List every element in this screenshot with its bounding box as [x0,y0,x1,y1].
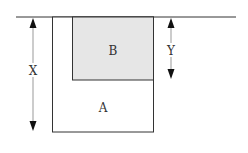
dimension-y-label: Y [166,44,176,58]
diagram-canvas: X Y B A [0,0,248,153]
dimension-y-arrowhead-top-icon [168,18,175,28]
dimension-y-arrowhead-bottom-icon [168,69,175,79]
region-a-label: A [98,101,108,115]
region-b-label: B [109,44,118,58]
dimension-x-arrowhead-top-icon [30,18,37,28]
dimension-x-arrowhead-bottom-icon [30,121,37,131]
dimension-x-label: X [29,64,38,78]
